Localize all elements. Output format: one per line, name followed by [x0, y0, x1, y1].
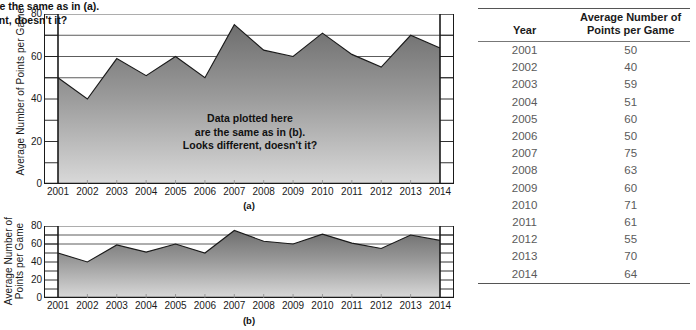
charts-area: Average Number of Points per Game 020406…	[0, 0, 468, 330]
y-tick-label: 40	[31, 94, 42, 104]
table-header-value-line2: Points per Game	[571, 24, 690, 37]
table-cell-value: 50	[571, 128, 690, 145]
x-tick-label: 2013	[399, 300, 421, 311]
y-tick-label: 0	[36, 179, 42, 189]
table-cell-year: 2002	[478, 59, 571, 76]
y-tick-label: 40	[31, 257, 42, 267]
table-cell-value: 70	[571, 248, 690, 265]
table-row: 200150	[478, 42, 690, 60]
x-tick-label: 2013	[399, 186, 421, 197]
table-row: 200775	[478, 145, 690, 162]
table-row: 201464	[478, 265, 690, 283]
figure-b: Average Number of Points per Game 020406…	[0, 212, 468, 330]
figure-b-y-tick-labels: 020406080	[20, 226, 42, 298]
y-tick-label: 20	[31, 275, 42, 285]
x-tick-label: 2012	[370, 300, 392, 311]
figure-a-y-tick-labels: 020406080	[20, 14, 42, 184]
table-cell-year: 2006	[478, 128, 571, 145]
table-cell-value: 64	[571, 265, 690, 283]
table-header-year: Year	[478, 9, 571, 42]
x-tick-label: 2014	[429, 300, 451, 311]
y-tick-label: 0	[36, 293, 42, 303]
table-cell-value: 55	[571, 231, 690, 248]
figure-a-caption: (a)	[44, 200, 454, 211]
y-tick-label: 60	[31, 52, 42, 62]
x-tick-label: 2011	[341, 186, 363, 197]
table-row: 201255	[478, 231, 690, 248]
y-tick-label: 60	[31, 239, 42, 249]
table-cell-year: 2012	[478, 231, 571, 248]
x-tick-label: 2010	[311, 300, 333, 311]
table-cell-value: 60	[571, 180, 690, 197]
x-tick-label: 2003	[106, 300, 128, 311]
x-tick-label: 2012	[370, 186, 392, 197]
x-tick-label: 2005	[164, 300, 186, 311]
x-tick-label: 2006	[194, 186, 216, 197]
table-cell-year: 2011	[478, 214, 571, 231]
figure-a-area-chart	[44, 14, 454, 184]
figure-b-plot	[44, 226, 454, 298]
table-row: 200650	[478, 128, 690, 145]
points-per-game-table: Year Average Number of Points per Game 2…	[478, 8, 690, 284]
figure-b-caption: (b)	[44, 315, 454, 326]
table-cell-value: 40	[571, 59, 690, 76]
x-tick-label: 2008	[253, 186, 275, 197]
table-row: 201161	[478, 214, 690, 231]
figure-a-x-tick-labels: 2001200220032004200520062007200820092010…	[44, 186, 454, 200]
y-tick-label: 20	[31, 137, 42, 147]
figure-a-annotation: Data plotted here are the same as in (b)…	[183, 112, 317, 153]
table-cell-year: 2010	[478, 197, 571, 214]
x-tick-label: 2002	[76, 300, 98, 311]
x-tick-label: 2008	[253, 300, 275, 311]
table-header-row: Year Average Number of Points per Game	[478, 9, 690, 42]
x-tick-label: 2002	[76, 186, 98, 197]
x-tick-label: 2001	[47, 186, 69, 197]
x-tick-label: 2006	[194, 300, 216, 311]
x-tick-label: 2004	[135, 300, 157, 311]
figure-b-area-chart	[44, 226, 454, 298]
x-tick-label: 2009	[282, 300, 304, 311]
x-tick-label: 2004	[135, 186, 157, 197]
x-tick-label: 2007	[223, 300, 245, 311]
x-tick-label: 2001	[47, 300, 69, 311]
table-bottom-rule	[478, 283, 690, 284]
table-cell-year: 2013	[478, 248, 571, 265]
figure-b-y-axis-title-line1: Average Number of	[3, 215, 14, 307]
table-cell-value: 60	[571, 111, 690, 128]
table-cell-value: 50	[571, 42, 690, 60]
table-cell-year: 2008	[478, 162, 571, 179]
x-tick-label: 2010	[311, 186, 333, 197]
table-row: 201370	[478, 248, 690, 265]
table-cell-value: 75	[571, 145, 690, 162]
table-cell-year: 2004	[478, 94, 571, 111]
x-tick-label: 2009	[282, 186, 304, 197]
figure-a-plot	[44, 14, 454, 184]
table-row: 200359	[478, 76, 690, 93]
table-cell-value: 71	[571, 197, 690, 214]
table-cell-year: 2007	[478, 145, 571, 162]
table-row: 200960	[478, 180, 690, 197]
table-cell-year: 2014	[478, 265, 571, 283]
table-row: 200451	[478, 94, 690, 111]
table-cell-year: 2009	[478, 180, 571, 197]
data-table-area: Year Average Number of Points per Game 2…	[472, 0, 696, 330]
table-cell-year: 2005	[478, 111, 571, 128]
table-row: 201071	[478, 197, 690, 214]
table-cell-year: 2003	[478, 76, 571, 93]
table-header-value: Average Number of Points per Game	[571, 9, 690, 42]
figure-a: Average Number of Points per Game 020406…	[0, 0, 468, 212]
table-row: 200863	[478, 162, 690, 179]
table-cell-value: 61	[571, 214, 690, 231]
x-tick-label: 2007	[223, 186, 245, 197]
table-row: 200560	[478, 111, 690, 128]
x-tick-label: 2011	[341, 300, 363, 311]
table-cell-value: 59	[571, 76, 690, 93]
table-cell-year: 2001	[478, 42, 571, 60]
table-cell-value: 51	[571, 94, 690, 111]
figure-b-annotation: Data plotted here are the same as in (a)…	[0, 0, 99, 27]
table-cell-value: 63	[571, 162, 690, 179]
x-tick-label: 2003	[106, 186, 128, 197]
figure-b-x-tick-labels: 2001200220032004200520062007200820092010…	[44, 300, 454, 314]
table-row: 200240	[478, 59, 690, 76]
x-tick-label: 2014	[429, 186, 451, 197]
